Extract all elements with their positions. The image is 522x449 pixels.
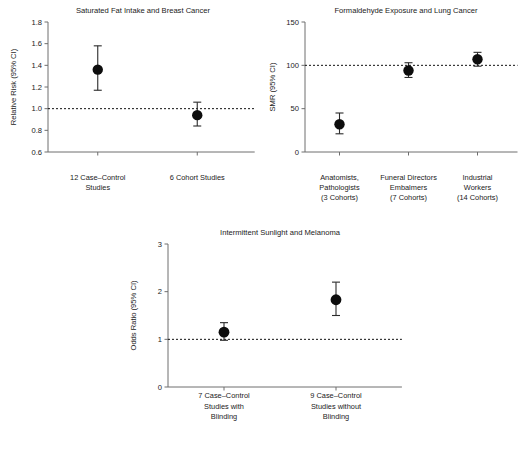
x-category-label: Anatomists, <box>320 173 359 182</box>
y-tick-label: 1.8 <box>31 18 42 27</box>
data-point-group <box>331 282 342 315</box>
y-tick-label: 150 <box>286 18 299 27</box>
estimate-point-marker <box>403 65 413 75</box>
estimate-point-marker <box>331 294 342 305</box>
y-tick-label: 2 <box>158 287 162 296</box>
y-tick-label: 0 <box>158 383 162 392</box>
chart-svg-sunlight-melanoma: Intermittent Sunlight and Melanoma0123Od… <box>120 222 410 449</box>
y-tick-label: 1.4 <box>31 61 42 70</box>
x-category-label: 6 Cohort Studies <box>170 173 225 182</box>
x-category-label: 9 Case–Control <box>310 391 362 400</box>
estimate-point-marker <box>93 64 103 74</box>
x-category-label: 7 Case–Control <box>198 391 250 400</box>
data-point-group <box>192 102 202 126</box>
y-tick-label: 0.8 <box>31 126 42 135</box>
x-category-label: (14 Cohorts) <box>457 193 498 202</box>
data-point-group <box>93 46 103 90</box>
chart-panel-sunlight-melanoma: Intermittent Sunlight and Melanoma0123Od… <box>120 222 410 449</box>
x-category-label: (3 Cohorts) <box>321 193 358 202</box>
data-point-group <box>334 113 344 134</box>
estimate-point-marker <box>334 119 344 129</box>
data-point-group <box>472 52 482 66</box>
y-tick-label: 0 <box>295 148 299 157</box>
chart-svg-formaldehyde: Formaldehyde Exposure and Lung Cancer050… <box>261 0 522 210</box>
x-category-label: Funeral Directors <box>380 173 437 182</box>
x-category-label: Blinding <box>323 412 349 421</box>
y-tick-label: 1.0 <box>31 104 42 113</box>
x-category-label: Industrial <box>463 173 493 182</box>
y-tick-label: 50 <box>291 104 299 113</box>
y-tick-label: 1 <box>158 335 162 344</box>
x-category-label: Pathologists <box>319 183 360 192</box>
y-tick-label: 0.6 <box>31 148 42 157</box>
y-tick-label: 1.2 <box>31 83 42 92</box>
x-category-label: 12 Case–Control <box>70 173 126 182</box>
y-axis-title: Relative Risk (95% CI) <box>9 48 18 125</box>
x-category-label: Workers <box>464 183 492 192</box>
chart-title: Saturated Fat Intake and Breast Cancer <box>76 6 211 15</box>
data-point-group <box>403 63 413 78</box>
y-tick-label: 3 <box>158 240 162 249</box>
x-category-label: (7 Cohorts) <box>390 193 427 202</box>
y-tick-label: 1.6 <box>31 39 42 48</box>
figure-container: Saturated Fat Intake and Breast Cancer0.… <box>0 0 522 449</box>
estimate-point-marker <box>219 327 230 338</box>
y-tick-label: 100 <box>286 61 299 70</box>
chart-title: Formaldehyde Exposure and Lung Cancer <box>334 6 478 15</box>
y-axis-title: SMR (95% CI) <box>268 62 277 111</box>
x-category-label: Blinding <box>211 412 237 421</box>
estimate-point-marker <box>192 110 202 120</box>
estimate-point-marker <box>472 54 482 64</box>
x-category-label: Studies without <box>311 402 361 411</box>
data-point-group <box>219 323 230 341</box>
x-category-label: Studies <box>85 183 110 192</box>
x-category-label: Embalmers <box>390 183 428 192</box>
x-category-label: Studies with <box>204 402 244 411</box>
chart-title: Intermittent Sunlight and Melanoma <box>220 228 341 237</box>
chart-panel-saturated-fat: Saturated Fat Intake and Breast Cancer0.… <box>0 0 261 210</box>
chart-svg-saturated-fat: Saturated Fat Intake and Breast Cancer0.… <box>0 0 261 210</box>
chart-panel-formaldehyde: Formaldehyde Exposure and Lung Cancer050… <box>261 0 522 210</box>
y-axis-title: Odds Ratio (95% CI) <box>129 280 138 351</box>
